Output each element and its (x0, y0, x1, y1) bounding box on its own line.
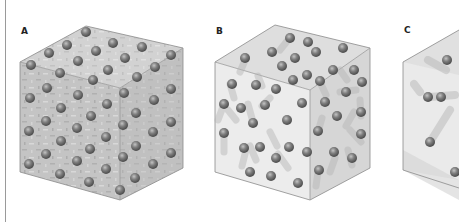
cube-liquid (215, 25, 370, 200)
cube-gas (403, 30, 459, 200)
states-of-matter-figure (0, 0, 459, 222)
cube-solid (20, 26, 183, 200)
